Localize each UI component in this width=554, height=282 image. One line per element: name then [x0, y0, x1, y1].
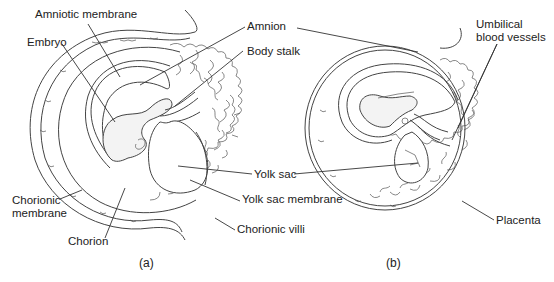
label-chorionic-membrane: Chorionic membrane — [12, 194, 67, 220]
label-amnion: Amnion — [247, 20, 286, 33]
label-chorionic-villi: Chorionic villi — [237, 223, 305, 236]
label-umbilical-blood-vessels: Umbilical blood vessels — [476, 18, 546, 44]
yolk-sac-b-drawing — [395, 132, 429, 183]
leader-chorionic-villi — [215, 218, 235, 230]
leader-amniotic-membrane — [88, 24, 120, 77]
chorion-top-flap — [185, 10, 197, 32]
yolk-sac-drawing — [148, 121, 207, 193]
label-amniotic-membrane: Amniotic membrane — [35, 8, 137, 21]
panel-b-drawing — [305, 28, 478, 210]
label-yolk-sac: Yolk sac — [254, 168, 296, 181]
label-placenta: Placenta — [496, 214, 541, 227]
label-chorion: Chorion — [68, 235, 108, 248]
caption-a: (a) — [139, 256, 154, 270]
leader-amnion-a — [140, 27, 245, 85]
leader-chorion — [105, 188, 125, 238]
label-embryo: Embryo — [27, 36, 67, 49]
leader-placenta — [462, 201, 494, 220]
label-body-stalk: Body stalk — [247, 45, 300, 58]
caption-b: (b) — [386, 256, 401, 270]
embryo-development-diagram: Amniotic membrane Embryo Amnion Body sta… — [0, 0, 554, 282]
leader-amnion-b — [297, 28, 418, 52]
placenta-top-flap — [440, 28, 461, 48]
label-yolk-sac-membrane: Yolk sac membrane — [242, 193, 343, 206]
leader-yolk-sac-membrane — [190, 180, 240, 201]
